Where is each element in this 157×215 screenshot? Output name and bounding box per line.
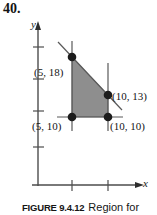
x-axis-label: x (143, 177, 148, 189)
point-5-18 (68, 53, 77, 62)
figure-caption-tag: FIGURE 9.4.12 (22, 202, 84, 213)
point-5-10 (68, 113, 77, 122)
figure-page: 40. y x (5, 18) (5, 10) (0, 0, 157, 215)
figure-caption: FIGURE 9.4.12Region for (22, 197, 157, 215)
shaded-region (72, 57, 108, 117)
y-axis-label: y (31, 18, 36, 30)
region-diagram (0, 0, 157, 215)
point-10-13 (104, 91, 113, 100)
figure-caption-text: Region for (88, 201, 139, 213)
point-label-10-13: (10, 13) (112, 90, 147, 102)
point-label-5-18: (5, 18) (34, 66, 63, 78)
point-label-5-10: (5, 10) (32, 120, 61, 132)
point-label-10-10: (10, 10) (110, 120, 145, 132)
